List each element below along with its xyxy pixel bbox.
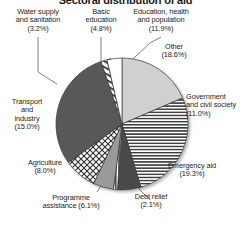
pie-label-basic-education: Basic education (4.8%) xyxy=(78,8,124,33)
pie-label-government-and-civil-society: Government and civil society (11.0%) xyxy=(186,93,250,118)
pie-label-debt-relief: Debt relief (2.1%) xyxy=(126,193,176,210)
pie-label-water-supply-and-sanitation: Water supply and sanitation (3.2%) xyxy=(4,8,72,33)
pie-label-other: Other (18.6%) xyxy=(148,43,200,60)
pie-label-programme-assistance: Programme assistance (6.1%) xyxy=(30,194,112,211)
leader-line-water xyxy=(38,37,57,84)
pie-label-education-health-and-population: Education, health and population (11.9%) xyxy=(124,8,198,33)
pie-label-emergency-aid: Emergency aid (19.3%) xyxy=(156,162,228,179)
pie-label-transport-and-industry: Transport and industry (15.0%) xyxy=(2,98,52,132)
pie-chart-figure: Sectoral distribution of aid xyxy=(0,0,251,227)
pie-label-agriculture: Agriculture (8.0%) xyxy=(16,159,74,176)
